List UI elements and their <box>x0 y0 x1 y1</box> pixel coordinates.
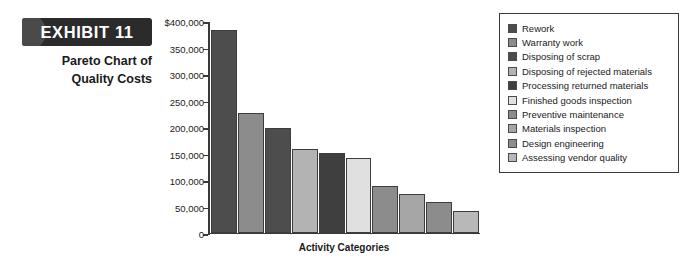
bar-series <box>211 21 479 233</box>
y-axis-tick-mark <box>203 102 208 104</box>
legend-label: Disposing of scrap <box>522 51 600 62</box>
plot-area <box>208 22 480 234</box>
bar <box>265 128 291 233</box>
y-axis-tick-label: 100,000 <box>150 176 204 187</box>
legend-label: Processing returned materials <box>522 80 648 91</box>
legend-swatch-icon <box>508 153 517 162</box>
bar <box>372 186 398 233</box>
x-axis-label: Activity Categories <box>208 242 480 253</box>
legend-item: Rework <box>508 21 672 35</box>
legend-swatch-icon <box>508 96 517 105</box>
y-axis-tick-mark <box>203 22 208 24</box>
y-axis-tick-label: 300,000 <box>150 70 204 81</box>
y-axis-tick-mark <box>203 181 208 183</box>
legend-swatch-icon <box>508 110 517 119</box>
exhibit-badge-label: EXHIBIT 11 <box>40 23 133 42</box>
legend-item: Assessing vendor quality <box>508 151 672 165</box>
legend-swatch-icon <box>508 139 517 148</box>
legend-label: Materials inspection <box>522 123 606 134</box>
bar <box>238 113 264 232</box>
legend-swatch-icon <box>508 52 517 61</box>
legend-item: Preventive maintenance <box>508 107 672 121</box>
chart-legend: ReworkWarranty workDisposing of scrapDis… <box>499 13 679 173</box>
legend-swatch-icon <box>508 124 517 133</box>
y-axis-tick-mark <box>203 49 208 51</box>
y-axis-tick-label: $400,000 <box>150 17 204 28</box>
y-axis-tick-label: 200,000 <box>150 123 204 134</box>
y-axis-tick-label: 0 <box>150 229 204 240</box>
legend-label: Finished goods inspection <box>522 95 632 106</box>
legend-item: Disposing of scrap <box>508 50 672 64</box>
legend-item: Materials inspection <box>508 122 672 136</box>
chart: $400,000350,000300,000250,000200,000150,… <box>150 10 490 265</box>
legend-swatch-icon <box>508 24 517 33</box>
legend-swatch-icon <box>508 38 517 47</box>
y-axis-tick-label: 250,000 <box>150 96 204 107</box>
legend-label: Disposing of rejected materials <box>522 66 652 77</box>
bar <box>319 153 345 233</box>
bar <box>211 30 237 233</box>
bar <box>426 202 452 233</box>
bar <box>399 194 425 232</box>
legend-label: Design engineering <box>522 138 604 149</box>
bar <box>346 158 372 233</box>
bar <box>453 211 479 232</box>
legend-item: Warranty work <box>508 35 672 49</box>
legend-label: Assessing vendor quality <box>522 152 627 163</box>
exhibit-title: Pareto Chart ofQuality Costs <box>0 52 152 88</box>
y-axis: $400,000350,000300,000250,000200,000150,… <box>150 10 204 234</box>
bar <box>292 149 318 233</box>
y-axis-tick-mark <box>203 155 208 157</box>
x-axis-line <box>208 233 480 235</box>
y-axis-tick-label: 150,000 <box>150 149 204 160</box>
y-axis-tick-mark <box>203 75 208 77</box>
y-axis-tick-mark <box>203 208 208 210</box>
legend-label: Rework <box>522 23 554 34</box>
exhibit-badge: EXHIBIT 11 <box>22 18 152 46</box>
y-axis-tick-label: 350,000 <box>150 43 204 54</box>
y-axis-tick-mark <box>203 128 208 130</box>
y-axis-tick-label: 50,000 <box>150 202 204 213</box>
y-axis-tick-mark <box>203 234 208 236</box>
y-axis-line <box>208 22 210 235</box>
legend-label: Preventive maintenance <box>522 109 624 120</box>
legend-item: Finished goods inspection <box>508 93 672 107</box>
legend-item: Processing returned materials <box>508 79 672 93</box>
legend-item: Disposing of rejected materials <box>508 64 672 78</box>
legend-swatch-icon <box>508 67 517 76</box>
legend-item: Design engineering <box>508 136 672 150</box>
legend-label: Warranty work <box>522 37 583 48</box>
legend-swatch-icon <box>508 81 517 90</box>
